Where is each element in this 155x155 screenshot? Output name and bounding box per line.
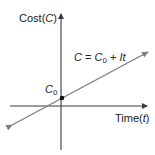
equation-term: It <box>119 51 125 63</box>
cost-time-diagram: Cost(C) C = C0 + It C0 Time(t) <box>0 0 155 155</box>
intercept-point <box>60 96 65 101</box>
equation-equals: = <box>82 51 95 63</box>
intercept-var: C <box>45 83 53 95</box>
intercept-label: C0 <box>45 84 57 97</box>
equation-lhs: C <box>74 51 82 63</box>
y-axis-label: Cost(C) <box>19 13 57 24</box>
equation-label: C = C0 + It <box>74 52 126 65</box>
intercept-subscript: 0 <box>53 88 57 97</box>
x-axis-label-var: t <box>143 112 146 124</box>
y-axis-label-text: Cost <box>19 12 42 24</box>
x-axis-label: Time(t) <box>115 113 149 124</box>
y-axis-label-var: C <box>45 12 53 24</box>
x-axis-label-text: Time <box>115 112 139 124</box>
equation-plus: + <box>107 51 120 63</box>
